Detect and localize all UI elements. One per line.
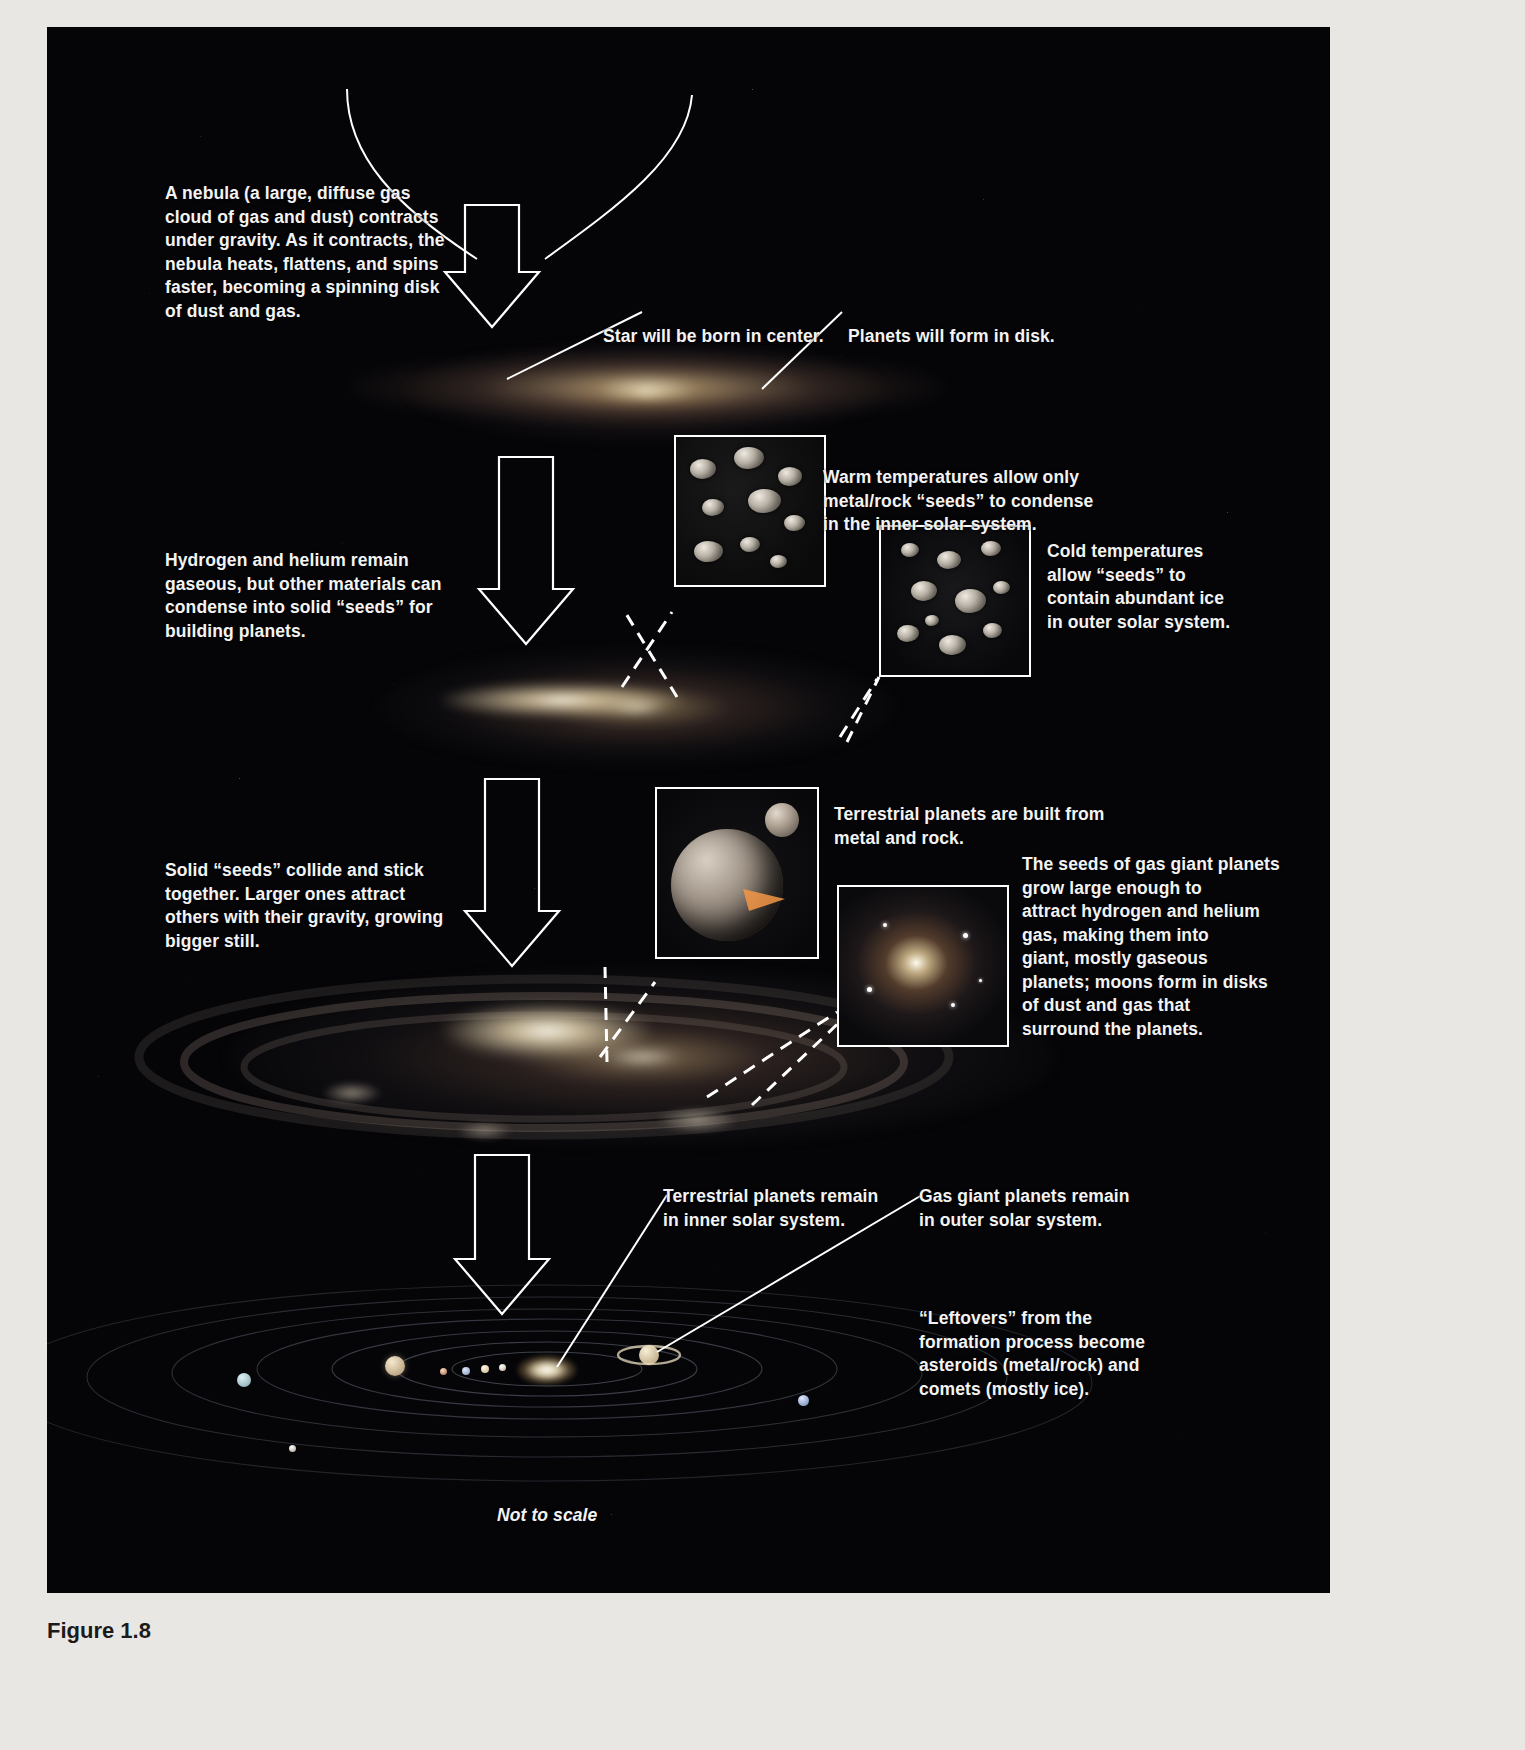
- planet-earth: [462, 1367, 470, 1375]
- planet-mercury: [499, 1364, 506, 1371]
- planet-mars: [440, 1368, 447, 1375]
- callout-gas-giants-remain: Gas giant planets remain in outer solar …: [919, 1185, 1219, 1232]
- disk-clump-a: [322, 1082, 382, 1104]
- callout-gas-giant-seeds: The seeds of gas giant planets grow larg…: [1022, 853, 1292, 1041]
- nebula-disk-stage2-core: [437, 682, 687, 718]
- terrestrial-planet-inset: [655, 787, 819, 959]
- callout-cold-seeds: Cold temperatures allow “seeds” to conta…: [1047, 540, 1297, 634]
- disk-clump-c: [457, 1122, 512, 1140]
- planet-venus: [481, 1365, 489, 1373]
- callout-warm-seeds: Warm temperatures allow only metal/rock …: [823, 466, 1173, 537]
- disk-clump-b: [657, 1107, 737, 1133]
- figure-caption-label: Figure 1.8: [47, 1618, 151, 1644]
- stage-condensation-text: Hydrogen and helium remain gaseous, but …: [165, 549, 505, 643]
- planet-pluto: [289, 1445, 296, 1452]
- callout-planets-disk: Planets will form in disk.: [848, 325, 1055, 349]
- nebula-disk-stage2: [377, 647, 897, 767]
- sun-final: [517, 1355, 577, 1385]
- rock-field: [676, 437, 824, 585]
- callout-star-center: Star will be born in center.: [603, 325, 824, 349]
- planet-jupiter: [385, 1356, 405, 1376]
- callout-terrestrial-remain: Terrestrial planets remain in inner sola…: [663, 1185, 953, 1232]
- icy-seed-inset: [879, 525, 1031, 677]
- gas-giant-inset: [837, 885, 1009, 1047]
- callout-leftovers: “Leftovers” from the formation process b…: [919, 1307, 1219, 1401]
- planet-neptune: [798, 1395, 809, 1406]
- callout-terrestrial-built: Terrestrial planets are built from metal…: [834, 803, 1174, 850]
- ice-rock-field: [881, 527, 1029, 675]
- solar-system-formation-figure: A nebula (a large, diffuse gas cloud of …: [47, 27, 1330, 1593]
- figure-page: A nebula (a large, diffuse gas cloud of …: [0, 0, 1525, 1750]
- not-to-scale-note: Not to scale: [497, 1504, 597, 1528]
- impact-cone: [657, 789, 817, 957]
- stage-nebula-text: A nebula (a large, diffuse gas cloud of …: [165, 182, 495, 323]
- metal-rock-seed-inset: [674, 435, 826, 587]
- planet-uranus: [237, 1373, 251, 1387]
- planet-saturn: [639, 1345, 659, 1365]
- stage-accretion-text: Solid “seeds” collide and stick together…: [165, 859, 505, 953]
- nebula-disk-stage1-halo: [347, 352, 947, 422]
- protoplanetary-disk-core: [437, 1002, 657, 1060]
